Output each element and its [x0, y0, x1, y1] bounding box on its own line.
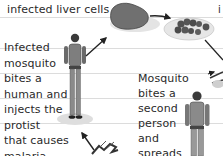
arrow-icon: [208, 72, 214, 74]
mosquito-icon: [92, 141, 118, 154]
arrow-icon: [86, 38, 106, 56]
mosquito-icon: [210, 72, 223, 88]
infected-cells-dish-icon: [164, 18, 214, 40]
arrow-icon: [205, 40, 223, 60]
arrow-icon: [82, 133, 94, 150]
arrow-icon: [150, 16, 170, 18]
person-icon: [185, 91, 210, 156]
person-icon: [57, 34, 93, 125]
liver-icon: [110, 3, 160, 32]
